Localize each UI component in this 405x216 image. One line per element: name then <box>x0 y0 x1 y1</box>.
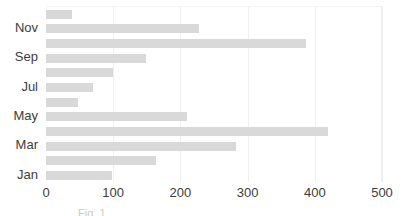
bar-row[interactable] <box>46 124 382 139</box>
bar[interactable] <box>46 98 78 107</box>
x-tick-label-300: 300 <box>237 186 259 200</box>
y-axis: JanMarMayJulSepNov <box>0 6 42 182</box>
bar-row[interactable] <box>46 36 382 51</box>
bar[interactable] <box>46 171 112 180</box>
bar-row[interactable] <box>46 154 382 169</box>
x-tick-label-400: 400 <box>304 186 326 200</box>
bar-row[interactable] <box>46 168 382 183</box>
bar[interactable] <box>46 142 236 151</box>
bar-row[interactable] <box>46 22 382 37</box>
figure-caption: Fig. 1 <box>78 208 106 216</box>
y-tick-label-sep: Sep <box>15 50 38 63</box>
x-tick-label-100: 100 <box>102 186 124 200</box>
bar[interactable] <box>46 24 199 33</box>
bar-row[interactable] <box>46 110 382 125</box>
x-axis: 0100200300400500 <box>0 186 405 206</box>
bar-row[interactable] <box>46 7 382 22</box>
bar[interactable] <box>46 156 156 165</box>
bar-row[interactable] <box>46 51 382 66</box>
x-tick-label-200: 200 <box>170 186 192 200</box>
bar[interactable] <box>46 68 113 77</box>
bar-row[interactable] <box>46 95 382 110</box>
bar-chart: JanMarMayJulSepNov 0100200300400500 Fig.… <box>0 0 405 216</box>
bar-series <box>46 7 381 182</box>
gridline <box>382 7 383 182</box>
bar[interactable] <box>46 127 328 136</box>
bar[interactable] <box>46 112 187 121</box>
y-tick-label-mar: Mar <box>16 138 38 151</box>
bar[interactable] <box>46 39 306 48</box>
y-tick-label-jul: Jul <box>21 80 38 93</box>
bar-row[interactable] <box>46 66 382 81</box>
y-tick-label-may: May <box>13 109 38 122</box>
bar-row[interactable] <box>46 80 382 95</box>
y-tick-label-nov: Nov <box>15 21 38 34</box>
x-tick-label-0: 0 <box>42 186 49 200</box>
bar[interactable] <box>46 83 93 92</box>
plot-area <box>46 6 382 182</box>
bar[interactable] <box>46 54 146 63</box>
x-tick-label-500: 500 <box>371 186 393 200</box>
bar[interactable] <box>46 10 72 19</box>
y-tick-label-jan: Jan <box>17 168 38 181</box>
bar-row[interactable] <box>46 139 382 154</box>
